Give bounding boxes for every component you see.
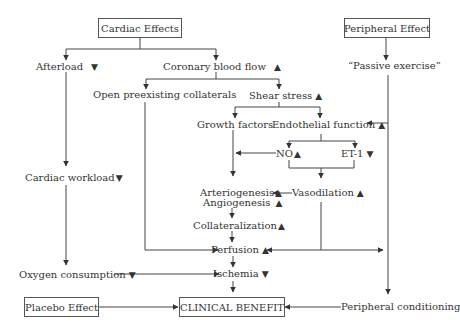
trend-down-icon: ▼ [366,149,373,159]
node-peripheral-conditioning: Peripheral conditioning [341,301,460,313]
perfusion-label: Perfusion [211,244,259,255]
node-endothelial-function: Endothelial function▲ [272,119,385,131]
cardiac-effects-box: Cardiac Effects [98,18,182,38]
node-ischemia: Ischemia▼ [213,268,269,280]
node-afterload: Afterload▼ [36,61,98,73]
trend-up-icon: ▲ [315,91,322,101]
clinical-benefit-box: CLINICAL BENEFIT [179,297,285,317]
trend-down-icon: ▼ [262,269,269,279]
node-passive-exercise: “Passive exercise” [348,60,441,72]
collateralization-label: Collateralization [193,220,277,231]
coronary-blood-flow-label: Coronary blood flow [163,61,266,72]
ischemia-label: Ischemia [213,268,259,279]
node-cardiac-workload: Cardiac workload▼ [25,172,123,184]
node-vasodilation: Vasodilation▲ [292,187,364,199]
node-coronary-blood-flow: Coronary blood flow▲ [163,61,281,73]
trend-down-icon: ▼ [129,270,136,280]
cardiac-workload-label: Cardiac workload [25,172,115,183]
node-perfusion: Perfusion▲ [211,244,269,256]
node-oxygen-consumption: Oxygen consumption▼ [19,269,136,281]
trend-up-icon: ▲ [278,221,285,231]
trend-up-icon: ▲ [378,120,385,130]
node-growth-factors: Growth factors [197,119,273,131]
trend-up-icon: ▲ [357,188,364,198]
trend-up-icon: ▲ [275,198,282,208]
node-no: NO▲ [276,148,301,160]
vasodilation-label: Vasodilation [292,187,354,198]
placebo-effect-box: Placebo Effect [24,297,99,317]
node-collateralization: Collateralization▲ [193,220,285,232]
trend-up-icon: ▲ [294,149,301,159]
no-label: NO [276,148,293,159]
node-open-collaterals: Open preexisting collaterals [93,89,236,101]
node-angiogenesis: Angiogenesis▲ [203,197,282,209]
oxygen-consumption-label: Oxygen consumption [19,269,126,280]
shear-stress-label: Shear stress [249,90,312,101]
et1-label: ET-1 [341,148,363,159]
trend-up-icon: ▲ [274,62,281,72]
node-et1: ET-1▼ [341,148,373,160]
angiogenesis-label: Angiogenesis [203,197,270,208]
trend-down-icon: ▼ [116,173,123,183]
node-shear-stress: Shear stress▲ [249,90,322,102]
endothelial-function-label: Endothelial function [272,119,375,130]
peripheral-effect-box: Peripheral Effect [344,18,430,38]
afterload-label: Afterload [36,61,83,72]
trend-up-icon: ▲ [262,245,269,255]
trend-down-icon: ▼ [91,62,98,72]
